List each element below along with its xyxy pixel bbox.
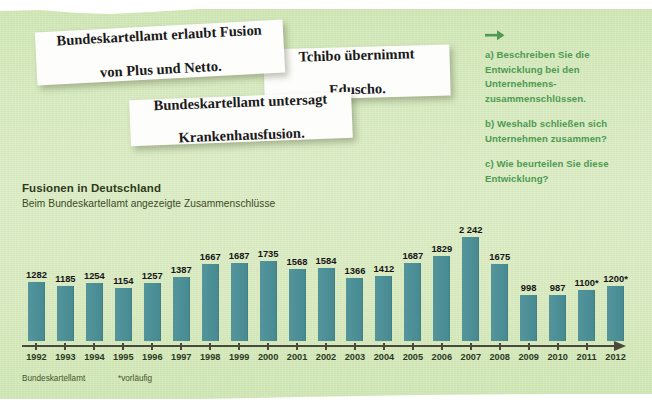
x-label-2004: 2004 [369,352,398,362]
axis-tick [557,343,559,350]
bar-2009 [520,295,537,341]
bar-cell: 1185 [51,214,80,341]
bar-2004 [375,276,392,341]
bar-cell: 1254 [80,214,109,341]
bar-value-label: 1675 [489,251,510,262]
axis-tick [470,343,472,350]
axis-tick [325,343,327,350]
question-a: a) Beschreiben Sie die Entwicklung bei d… [485,48,645,106]
x-label-2009: 2009 [514,352,543,362]
bar-2008 [491,264,508,342]
bar-1992 [28,282,45,341]
source-label: Bundeskartellamt [22,374,85,383]
bar-cell: 1387 [167,214,196,341]
axis-tick [35,343,37,350]
x-label-1996: 1996 [138,352,167,362]
arrow-right-icon [485,28,507,42]
x-axis-labels: 1992199319941995199619971998199920002001… [22,352,630,362]
bar-cell: 987 [543,214,572,341]
bar-cell: 1687 [398,214,427,341]
bar-2010 [549,295,566,341]
bar-value-label: 1185 [55,273,75,284]
bar-value-label: 1584 [316,255,337,266]
headline-card-3-text: Bundeskartellamt untersagtKrankenhausfus… [137,90,344,148]
axis-tick [296,343,298,350]
question-c: c) Wie beurteilen Sie diese Entwicklung? [485,157,645,186]
bar-cell: 1829 [427,214,456,341]
x-label-2003: 2003 [340,352,369,362]
chart-subtitle: Beim Bundeskartellamt angezeigte Zusamme… [22,198,275,209]
bar-2011 [578,290,595,341]
bar-value-label: 1254 [84,270,105,281]
footnote-label: *vorläufig [118,374,152,383]
bar-value-label: 1387 [171,264,192,275]
x-label-2002: 2002 [312,352,341,362]
bar-1997 [173,277,190,341]
x-label-1992: 1992 [22,352,51,362]
axis-tick [383,343,385,350]
bar-cell: 1568 [283,214,312,341]
x-label-1995: 1995 [109,352,138,362]
infographic-page: Bundeskartellamt erlaubt Fusionvon Plus … [0,0,652,410]
bar-1998 [202,264,219,341]
x-label-2007: 2007 [456,352,485,362]
bar-cell: 1100* [572,214,601,341]
bar-cell: 1735 [254,214,283,341]
axis-tick [238,343,240,350]
x-label-1997: 1997 [167,352,196,362]
bar-value-label: 1735 [258,248,279,259]
bar-cell: 1584 [312,214,341,341]
bar-cell: 1687 [225,214,254,341]
x-label-2006: 2006 [427,352,456,362]
bar-cell: 1675 [485,214,514,341]
headline-card-1-text: Bundeskartellamt erlaubt Fusionvon Plus … [40,21,280,84]
bar-value-label: 1200* [603,273,628,284]
axis-tick [615,343,617,350]
headline-card-krankenhausfusion: Bundeskartellamt untersagtKrankenhausfus… [129,92,353,146]
question-b: b) Weshalb schließen sich Unternehmen zu… [485,117,645,146]
bar-value-label: 1412 [373,263,394,274]
x-label-1999: 1999 [225,352,254,362]
bar-2001 [289,269,306,342]
bar-value-label: 1568 [287,256,308,267]
x-label-2008: 2008 [485,352,514,362]
bar-1999 [231,263,248,341]
x-label-2001: 2001 [283,352,312,362]
bar-value-label: 1829 [431,243,452,254]
axis-tick [354,343,356,350]
axis-tick [122,343,124,350]
axis-tick [209,343,211,350]
axis-tick [586,343,588,350]
bar-cell: 998 [514,214,543,341]
bar-value-label: 1687 [229,250,250,261]
bar-value-label: 1687 [402,250,423,261]
bar-2003 [346,278,363,341]
bar-cell: 1366 [340,214,369,341]
axis-tick [64,343,66,350]
axis-tick [528,343,530,350]
bar-1996 [144,283,161,341]
bar-value-label: 2 242 [459,224,482,235]
x-label-2011: 2011 [572,352,601,362]
bar-cell: 2 242 [456,214,485,341]
x-label-2000: 2000 [254,352,283,362]
bar-1994 [86,283,103,341]
bar-2002 [318,268,335,341]
bar-value-label: 998 [521,282,537,293]
x-label-1993: 1993 [51,352,80,362]
bar-value-label: 1282 [26,269,47,280]
bar-2007 [462,237,479,341]
x-label-1994: 1994 [80,352,109,362]
axis-tick [412,343,414,350]
bar-value-label: 1100* [575,277,599,288]
bar-cell: 1282 [22,214,51,341]
bar-cell: 1412 [369,214,398,341]
x-label-1998: 1998 [196,352,225,362]
axis-tick [180,343,182,350]
bar-2005 [404,263,421,341]
chart-title: Fusionen in Deutschland [22,182,161,194]
axis-tick [93,343,95,350]
headline-card-2-line1: Tchibo übernimmt [290,45,422,65]
x-label-2005: 2005 [398,352,427,362]
axis-tick [151,343,153,350]
